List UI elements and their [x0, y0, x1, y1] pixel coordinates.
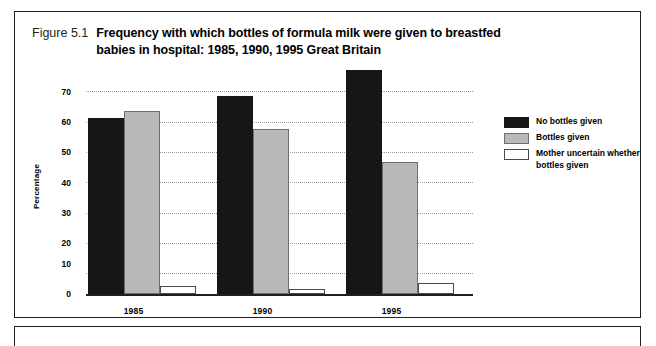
bar-1990-mother-uncertain[interactable] — [289, 289, 325, 294]
x-tick-label-1985: 1985 — [86, 306, 181, 316]
bar-1995-bottles-given[interactable] — [382, 162, 418, 294]
legend-item-no-bottles-given[interactable]: No bottles given — [504, 116, 644, 128]
y-tick-label: 60 — [45, 117, 71, 127]
bar-1985-bottles-given[interactable] — [124, 111, 160, 294]
bar-1985-no-bottles[interactable] — [88, 118, 124, 294]
bar-1995-mother-uncertain[interactable] — [418, 283, 454, 294]
y-tick-label: 40 — [45, 178, 71, 188]
bar-1995-no-bottles[interactable] — [346, 70, 382, 294]
legend-item-mother-uncertain[interactable]: Mother uncertain whether bottles given — [504, 148, 644, 171]
y-tick-label: 20 — [45, 238, 71, 248]
legend-label: No bottles given — [536, 116, 602, 128]
legend-swatch-icon — [504, 117, 529, 128]
bar-1985-mother-uncertain[interactable] — [160, 286, 196, 294]
bar-group-1985: 1985 — [86, 37, 181, 294]
bar-1990-no-bottles[interactable] — [217, 96, 253, 294]
legend-swatch-icon — [504, 149, 529, 160]
legend-swatch-icon — [504, 133, 529, 144]
figure-frame: Figure 5.1 Frequency with which bottles … — [14, 11, 641, 318]
y-tick-label: 30 — [45, 208, 71, 218]
x-tick-label-1990: 1990 — [215, 306, 310, 316]
bar-1990-bottles-given[interactable] — [253, 129, 289, 294]
legend-item-bottles-given[interactable]: Bottles given — [504, 132, 644, 144]
next-figure-frame — [14, 326, 641, 346]
y-tick-label: 70 — [45, 87, 71, 97]
y-axis-title: Percentage — [32, 142, 41, 232]
legend-label: Bottles given — [536, 132, 589, 144]
x-axis-line — [86, 294, 473, 296]
chart-legend: No bottles given Bottles given Mother un… — [504, 116, 644, 175]
y-tick-label: 0 — [45, 289, 71, 299]
legend-label: Mother uncertain whether bottles given — [536, 148, 644, 171]
x-tick-label-1995: 1995 — [344, 306, 439, 316]
bar-group-1995: 1995 — [344, 37, 439, 294]
bar-group-1990: 1990 — [215, 37, 310, 294]
y-tick-label: 50 — [45, 147, 71, 157]
y-tick-label: 10 — [45, 259, 71, 269]
